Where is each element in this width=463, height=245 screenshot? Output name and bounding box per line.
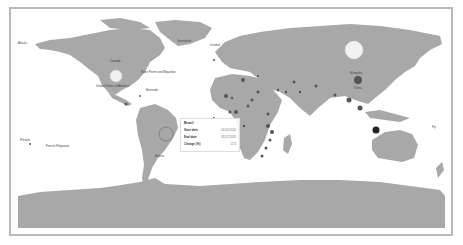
tooltip-key: Change (%) [184, 142, 201, 146]
tooltip-value: 31/12/2020 [221, 135, 236, 139]
tooltip-key: End date [184, 135, 197, 139]
tooltip-title: Brazil [184, 121, 194, 125]
label-united-states: United States of America [96, 84, 129, 88]
label-french-polynesia: French Polynesia [46, 144, 69, 148]
label-alaska: Alaska [18, 41, 27, 45]
tooltip-row: End date 31/12/2020 [184, 135, 238, 140]
tooltip-key: Start date [184, 128, 198, 132]
label-china: China [354, 86, 362, 90]
antarctica [18, 178, 445, 228]
label-fiji: Fiji [432, 125, 436, 129]
south-america [136, 104, 178, 188]
label-greenland: Greenland [177, 39, 191, 43]
label-bermuda: Bermuda [146, 88, 158, 92]
australia [372, 130, 418, 162]
map-tooltip: Brazil Start date 01/01/2020 End date 31… [180, 118, 240, 152]
tooltip-value: 01/01/2020 [221, 128, 236, 132]
label-iceland: Iceland [210, 43, 220, 47]
bubble-russia[interactable] [345, 41, 363, 59]
label-pitcairn: Pitcairn [20, 138, 30, 142]
tooltip-row: Start date 01/01/2020 [184, 128, 238, 133]
label-saint-pierre: Saint Pierre and Miquelon [141, 70, 176, 74]
tooltip-row: Change (%) 12.3 [184, 142, 238, 147]
label-canada: Canada [110, 59, 121, 63]
bubble-united-states[interactable] [110, 70, 122, 82]
tooltip-value: 12.3 [230, 142, 236, 146]
label-mongolia: Mongolia [350, 71, 362, 75]
label-bolivia: Bolivia [155, 154, 164, 158]
